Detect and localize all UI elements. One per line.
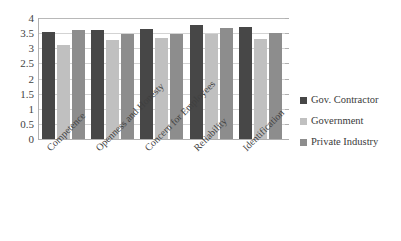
y-axis-tick-label: 1: [0, 103, 34, 114]
y-axis-tick-mark: [285, 48, 289, 49]
y-axis-tick-label: 0.5: [0, 118, 34, 129]
bar[interactable]: [190, 25, 203, 139]
bar[interactable]: [239, 27, 252, 139]
chart-legend: Gov. ContractorGovernmentPrivate Industr…: [300, 92, 401, 155]
legend-item[interactable]: Gov. Contractor: [300, 92, 401, 109]
legend-swatch-icon: [300, 97, 307, 104]
legend-item[interactable]: Private Industry: [300, 134, 401, 151]
y-axis: 00.511.522.533.54: [0, 18, 38, 140]
y-axis-tick-mark: [285, 94, 289, 95]
y-axis-tick-label: 4: [0, 13, 34, 24]
legend-item-label: Gov. Contractor: [311, 95, 379, 106]
legend-item[interactable]: Government: [300, 113, 401, 130]
y-axis-tick-label: 3.5: [0, 28, 34, 39]
bar-chart: 00.511.522.533.54 CompetenceOpenness and…: [0, 0, 401, 241]
legend-item-label: Government: [311, 116, 364, 127]
legend-swatch-icon: [300, 139, 307, 146]
y-axis-tick-mark: [285, 79, 289, 80]
y-axis-tick-mark: [285, 63, 289, 64]
x-axis-category-labels: CompetenceOpenness and HonestyConcern fo…: [0, 140, 300, 241]
y-axis-tick-mark: [285, 124, 289, 125]
y-axis-tick-label: 1.5: [0, 88, 34, 99]
y-axis-tick-label: 3: [0, 43, 34, 54]
y-axis-tick-label: 2: [0, 73, 34, 84]
y-axis-tick-label: 2.5: [0, 58, 34, 69]
bar[interactable]: [140, 29, 153, 139]
y-axis-tick-mark: [285, 109, 289, 110]
legend-swatch-icon: [300, 118, 307, 125]
legend-item-label: Private Industry: [311, 137, 378, 148]
bar[interactable]: [42, 32, 55, 139]
bar-group: [187, 18, 236, 139]
y-axis-tick-mark: [285, 33, 289, 34]
bar[interactable]: [91, 30, 104, 139]
y-axis-tick-mark: [285, 18, 289, 19]
